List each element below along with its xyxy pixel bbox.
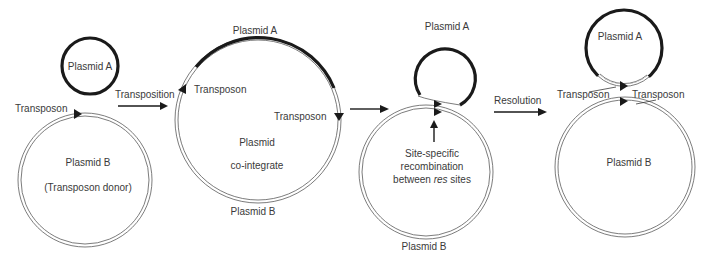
resolution-arrow: Resolution	[494, 95, 547, 116]
plasmid-b-inner-strand	[362, 108, 490, 236]
transposon-right-marker	[334, 113, 344, 121]
plasmid-a-label: Plasmid A	[233, 25, 278, 36]
transposon-left-label: Transposon	[194, 84, 246, 95]
plasmid-label: Plasmid	[239, 137, 275, 148]
plasmid-b-inner-strand	[21, 116, 149, 244]
stage-1: Plasmid A Transposon Plasmid B (Transpos…	[15, 38, 152, 247]
arrow-head	[160, 102, 168, 110]
note-line-1: Site-specific	[405, 148, 459, 159]
plasmid-a-label: Plasmid A	[598, 31, 643, 42]
transposition-arrow: Transposition	[115, 89, 175, 110]
plasmid-b-transposon-marker	[620, 97, 628, 106]
plasmid-a-segment	[196, 38, 334, 88]
plasmid-b-outer-strand	[359, 105, 493, 239]
resolution-label: Resolution	[494, 95, 541, 106]
note-line-3: between res sites	[393, 174, 471, 185]
plasmid-b-label: Plasmid B	[606, 157, 651, 168]
cointegrate-label: co-integrate	[231, 160, 284, 171]
stage-3: Plasmid A Site-specific recombination be…	[359, 21, 493, 252]
plasmid-b-label: Plasmid B	[230, 206, 275, 217]
transposition-label: Transposition	[115, 89, 175, 100]
plasmid-a-transposon-marker	[620, 81, 628, 91]
arrow-head	[538, 108, 547, 116]
transposon-label: Transposon	[15, 103, 67, 114]
note-line-2: recombination	[401, 161, 464, 172]
transposon-right-label: Transposon	[632, 89, 684, 100]
plasmid-a-circle	[586, 10, 662, 86]
transposon-left-marker	[178, 84, 186, 94]
transposon-right-label: Transposon	[274, 111, 326, 122]
intermediate-arrow	[350, 105, 389, 113]
plasmid-b-label: Plasmid B	[65, 157, 110, 168]
recombination-pointer-head	[430, 120, 438, 128]
plasmid-b-outer-strand	[18, 113, 152, 247]
stage-2: Plasmid A Transposon Transposon Plasmid …	[175, 25, 344, 217]
plasmid-a-loop	[415, 49, 475, 105]
transposon-marker	[74, 109, 82, 119]
transposon-left-label: Transposon	[557, 89, 609, 100]
plasmid-b-label: Plasmid B	[401, 241, 446, 252]
arrow-head	[380, 105, 389, 113]
plasmid-a-label: Plasmid A	[68, 61, 113, 72]
plasmid-a-label: Plasmid A	[425, 21, 470, 32]
donor-label: (Transposon donor)	[44, 182, 131, 193]
transposition-diagram: Plasmid A Transposon Plasmid B (Transpos…	[0, 0, 705, 264]
stage-4: Plasmid A Transposon Transposon Plasmid …	[555, 10, 695, 237]
